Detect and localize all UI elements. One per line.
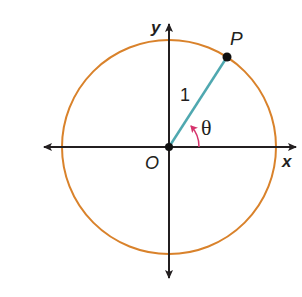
point-p-label: P <box>230 28 243 49</box>
y-axis-label: y <box>150 18 162 37</box>
angle-theta-label: θ <box>201 115 212 140</box>
angle-arc <box>191 126 199 147</box>
origin-point <box>165 143 173 151</box>
radius-length-label: 1 <box>180 85 190 105</box>
x-axis-label: x <box>281 152 293 171</box>
radius-line <box>169 57 227 147</box>
origin-label: O <box>145 153 159 173</box>
point-p <box>223 53 232 62</box>
unit-circle-diagram: y x O P 1 θ <box>0 0 302 297</box>
